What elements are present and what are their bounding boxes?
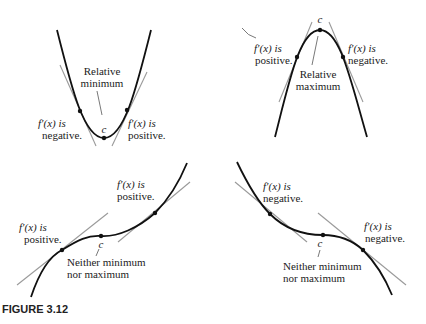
left-label-line2: negative. xyxy=(42,129,82,141)
extremum-label-line1: Relative xyxy=(84,65,121,77)
neither-label-line2: nor maximum xyxy=(67,268,129,280)
point-negative xyxy=(341,55,345,59)
right-label-line2: negative. xyxy=(348,54,388,66)
extremum-label-line2: maximum xyxy=(296,80,341,92)
pointer-line xyxy=(97,91,102,115)
right-label-line2: negative. xyxy=(365,232,405,244)
figure-caption: FIGURE 3.12 xyxy=(2,303,68,315)
stray-mark xyxy=(242,28,256,38)
panel-relative-minimum: Relative minimum c f′(x) is negative. f′… xyxy=(38,30,166,146)
right-label-line2: positive. xyxy=(128,129,166,141)
critical-point-label: c xyxy=(99,238,104,250)
point-negative xyxy=(78,109,82,113)
left-label-line2: positive. xyxy=(24,233,62,245)
panel-decreasing-inflection: c f′(x) is negative. f′(x) is negative. … xyxy=(235,162,406,295)
neither-label-line1: Neither minimum xyxy=(283,260,362,272)
point-right xyxy=(153,211,157,215)
pointer-line xyxy=(318,250,320,257)
point-right xyxy=(361,248,365,252)
pointer-line xyxy=(96,249,99,256)
point-left xyxy=(268,212,272,216)
critical-point-label: c xyxy=(318,237,323,249)
point-positive xyxy=(295,55,299,59)
pointer-line xyxy=(312,36,318,65)
neither-label-line2: nor maximum xyxy=(283,272,345,284)
point-left xyxy=(60,248,64,252)
neither-label-line1: Neither minimum xyxy=(67,256,146,268)
critical-point-label: c xyxy=(318,13,323,25)
right-label-line2: positive. xyxy=(117,190,155,202)
point-positive xyxy=(125,108,129,112)
extremum-label-line1: Relative xyxy=(300,68,337,80)
critical-point-label: c xyxy=(102,123,107,135)
figure-canvas: Relative minimum c f′(x) is negative. f′… xyxy=(0,0,426,324)
panel-relative-maximum: c f′(x) is positive. f′(x) is negative. … xyxy=(242,13,388,137)
point-c xyxy=(102,136,106,140)
left-label-line2: negative. xyxy=(263,192,303,204)
extremum-label-line2: minimum xyxy=(81,77,124,89)
panel-increasing-inflection: c f′(x) is positive. f′(x) is positive. … xyxy=(17,163,190,297)
left-label-line2: positive. xyxy=(255,54,293,66)
point-c xyxy=(318,28,322,32)
